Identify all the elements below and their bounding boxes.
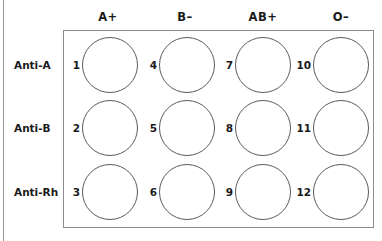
well-number: 7 [217,58,233,72]
well-circle [82,100,138,156]
well-number: 9 [217,185,233,199]
well-circle [235,100,291,156]
column-header-a-positive: A+ [78,10,138,24]
well-number: 10 [295,58,311,72]
column-header-b-negative: B– [155,10,215,24]
well-number: 5 [141,121,157,135]
well-circle [159,37,215,93]
row-header-anti-b: Anti-B [14,121,60,135]
row-header-anti-rh: Anti-Rh [14,185,60,199]
well-number: 11 [295,121,311,135]
well-number: 2 [64,121,80,135]
well-number: 12 [295,185,311,199]
well-circle [159,164,215,220]
well-circle [313,164,369,220]
well-circle [82,37,138,93]
left-border-rule [3,0,4,241]
column-header-ab-positive: AB+ [233,10,293,24]
well-number: 1 [64,58,80,72]
well-number: 6 [141,185,157,199]
well-circle [313,100,369,156]
row-header-anti-a: Anti-A [14,58,60,72]
well-circle [235,37,291,93]
well-number: 3 [64,185,80,199]
well-number: 4 [141,58,157,72]
well-circle [159,100,215,156]
column-header-o-negative: O– [311,10,371,24]
well-circle [82,164,138,220]
well-circle [235,164,291,220]
well-circle [313,37,369,93]
well-number: 8 [217,121,233,135]
